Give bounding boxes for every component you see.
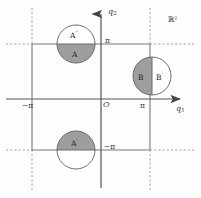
label-B-prime: B′ bbox=[156, 72, 163, 82]
label-A-prime: A′ bbox=[71, 138, 78, 148]
y-tick-pos-pi: π bbox=[105, 37, 110, 45]
y-tick-neg-pi: −π bbox=[104, 143, 115, 151]
label-A: A bbox=[72, 49, 78, 59]
label-A-double-prime: A″ bbox=[70, 30, 78, 40]
label-B: B bbox=[138, 72, 144, 82]
plane-label: ℝ² bbox=[168, 16, 177, 24]
x-axis-label: q1 bbox=[176, 105, 185, 114]
origin-label: O bbox=[103, 101, 110, 109]
fundamental-square bbox=[32, 44, 150, 150]
y-axis-label: q2 bbox=[108, 8, 117, 17]
x-tick-neg-pi: −π bbox=[22, 102, 33, 110]
x-tick-pos-pi: π bbox=[140, 102, 145, 110]
figure-canvas: q2 q1 ℝ² O −π π π −π A″ A B B′ A′ bbox=[0, 0, 201, 198]
diagram-svg bbox=[0, 0, 201, 198]
